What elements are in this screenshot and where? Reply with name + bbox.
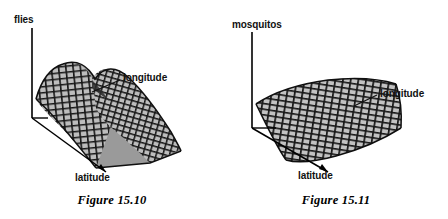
figure-15-11: mosquitos longitude latitude Figure 15.1…	[224, 0, 448, 219]
axis-label-latitude: latitude	[298, 170, 333, 181]
callout-label-longitude: longitude	[123, 72, 167, 83]
callout-label-longitude: longitude	[380, 88, 424, 99]
fly-surface	[20, 50, 210, 190]
figure-caption: Figure 15.10	[0, 193, 224, 208]
axis-label-mosquitos: mosquitos	[232, 19, 282, 30]
figure-15-10: flies longitude latitude Figure 15.10	[0, 0, 224, 219]
figure-15-11-plot	[224, 0, 448, 219]
mosquito-surface	[244, 68, 419, 178]
axis-label-latitude: latitude	[75, 172, 110, 183]
figure-caption: Figure 15.11	[224, 193, 448, 208]
figure-15-10-plot	[0, 0, 224, 219]
figure-page: flies longitude latitude Figure 15.10	[0, 0, 448, 219]
axis-label-flies: flies	[14, 14, 34, 25]
